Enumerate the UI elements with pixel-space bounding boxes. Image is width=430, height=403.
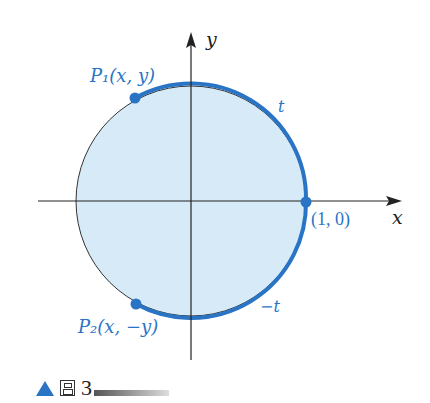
figure-number: 3 [81, 375, 92, 401]
p2-label: P₂(x, −y) [77, 316, 158, 337]
figure-caption: 3 [36, 378, 169, 398]
point-1-0 [301, 197, 312, 208]
triangle-icon [36, 381, 54, 396]
p1-label: P₁(x, y) [89, 65, 155, 86]
point-p1 [130, 93, 141, 104]
caption-gradient-bar [94, 390, 169, 396]
y-axis-label: y [205, 28, 217, 50]
unit-circle-diagram: y x P₁(x, y) P₂(x, −y) (1, 0) t −t [0, 0, 430, 403]
point-p2 [131, 299, 142, 310]
point-1-0-label: (1, 0) [311, 209, 350, 230]
figure-glyph-icon [60, 380, 75, 396]
arc-t-label: t [278, 97, 285, 116]
arc-minus-t-label: −t [260, 297, 280, 316]
x-axis-label: x [392, 206, 403, 228]
